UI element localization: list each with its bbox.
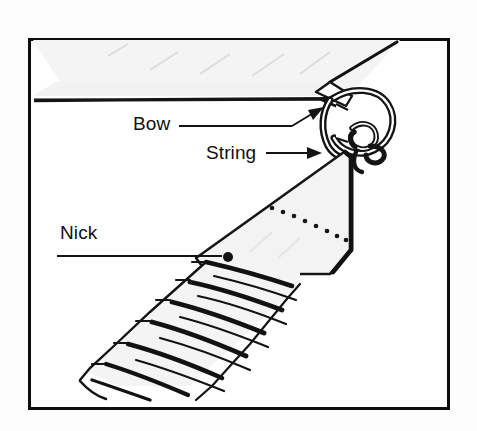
label-string: String [206,143,256,162]
nick-point-dot [223,252,233,262]
figure-artwork [0,0,477,431]
label-bow: Bow [133,114,170,133]
fletching [80,262,300,400]
arrowhead-string [307,147,322,159]
label-nick: Nick [60,223,97,242]
leader-bow [179,107,324,126]
bow-string [34,97,330,102]
figure-page: Bow String Nick [0,0,477,431]
leader-string [266,147,322,159]
